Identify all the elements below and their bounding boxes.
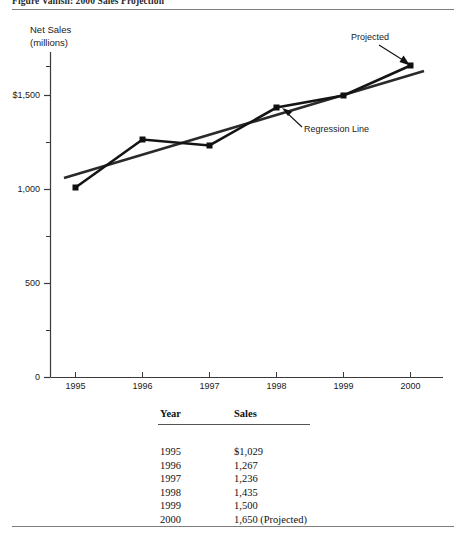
y-tick-label-500: 500 — [0, 278, 40, 288]
table-header-rule — [158, 424, 310, 425]
data-point-1997 — [207, 143, 213, 149]
y-tick-label-1500: $1,500 — [0, 90, 40, 100]
chart-plot-area — [0, 0, 466, 400]
data-point-1998 — [274, 105, 280, 111]
y-axis-title-line1: Net Sales — [30, 24, 71, 35]
x-tick-label-1996: 1996 — [123, 381, 163, 391]
y-tick-label-0: 0 — [0, 372, 40, 382]
table-header-row: Year Sales — [160, 408, 360, 423]
table-row: 1998 1,435 — [160, 486, 360, 500]
table-row: 1999 1,500 — [160, 499, 360, 513]
y-tick-label-1000: 1,000 — [0, 184, 40, 194]
cell-year: 1996 — [160, 459, 181, 473]
table-row: 1997 1,236 — [160, 472, 360, 486]
x-tick-label-2000: 2000 — [391, 381, 431, 391]
x-tick-label-1998: 1998 — [257, 381, 297, 391]
sales-data-table: Year Sales 1995 $1,029 1996 1,267 1997 1… — [160, 408, 360, 526]
table-body: 1995 $1,029 1996 1,267 1997 1,236 1998 1… — [160, 445, 360, 526]
projected-annotation-label: Projected — [351, 32, 389, 42]
x-tick-label-1997: 1997 — [190, 381, 230, 391]
figure-page: Figure Vanish: 2000 Sales Projection Net… — [0, 0, 466, 541]
data-point-1995 — [73, 185, 79, 191]
cell-sales: 1,500 — [234, 499, 258, 513]
cell-sales: 1,650 (Projected) — [234, 513, 307, 527]
table-row: 2000 1,650 (Projected) — [160, 513, 360, 527]
cell-year: 2000 — [160, 513, 181, 527]
table-row: 1995 $1,029 — [160, 445, 360, 459]
cell-year: 1998 — [160, 486, 181, 500]
projected-callout-arrow — [379, 45, 410, 66]
table-row: 1996 1,267 — [160, 459, 360, 473]
y-axis-minor-ticks — [46, 67, 51, 331]
cell-sales: 1,236 — [234, 472, 258, 486]
y-axis-title: Net Sales (millions) — [30, 24, 71, 49]
cell-year: 1999 — [160, 499, 181, 513]
bottom-divider-rule — [12, 526, 454, 527]
cell-sales: $1,029 — [234, 445, 263, 459]
cell-sales: 1,267 — [234, 459, 258, 473]
x-tick-label-1995: 1995 — [56, 381, 96, 391]
y-axis-title-line2: (millions) — [30, 37, 71, 50]
column-header-year: Year — [160, 408, 181, 419]
x-tick-label-1999: 1999 — [324, 381, 364, 391]
data-point-1999 — [341, 93, 347, 99]
sales-line-chart: Net Sales (millions) — [0, 0, 466, 400]
data-point-1996 — [140, 137, 146, 143]
column-header-sales: Sales — [234, 408, 257, 419]
regression-line-annotation-label: Regression Line — [304, 124, 369, 134]
cell-sales: 1,435 — [234, 486, 258, 500]
x-axis-ticks — [76, 372, 411, 378]
cell-year: 1995 — [160, 445, 181, 459]
cell-year: 1997 — [160, 472, 181, 486]
